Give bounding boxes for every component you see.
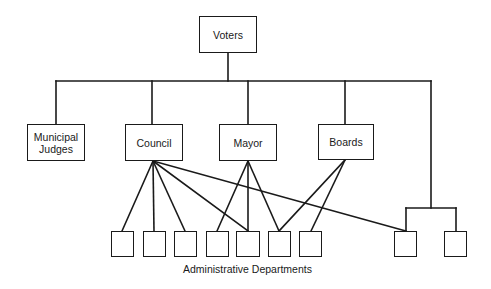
department-box-4 [206, 231, 229, 257]
municipal-judges-label-line1: Municipal [34, 131, 78, 143]
voters-node: Voters [199, 16, 257, 53]
mayor-node: Mayor [219, 124, 277, 161]
boards-node: Boards [318, 124, 374, 160]
department-box-5 [236, 231, 260, 257]
mayor-label: Mayor [233, 137, 262, 149]
department-box-3 [174, 231, 197, 257]
department-box-8 [394, 231, 417, 257]
department-box-2 [143, 231, 166, 257]
departments-caption: Administrative Departments [183, 263, 312, 275]
council-node: Council [125, 124, 183, 161]
boards-label: Boards [329, 136, 362, 148]
municipal-judges-label-line2: Judges [39, 143, 73, 155]
council-label: Council [136, 137, 171, 149]
voters-label: Voters [213, 29, 243, 41]
municipal-judges-node: Municipal Judges [27, 124, 85, 161]
department-box-1 [111, 231, 134, 257]
department-box-6 [268, 231, 291, 257]
department-box-7 [299, 231, 322, 257]
department-box-9 [444, 231, 467, 257]
